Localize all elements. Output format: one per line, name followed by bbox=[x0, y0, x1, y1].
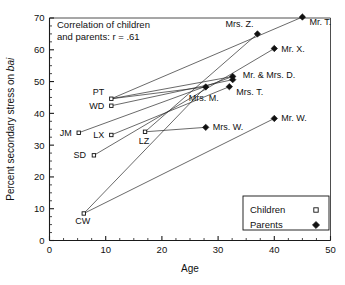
marker-parent-diamond[interactable] bbox=[271, 115, 277, 121]
y-tick-label: 70 bbox=[34, 12, 45, 23]
marker-child-square[interactable] bbox=[110, 104, 113, 107]
data-point[interactable]: Mr. W. bbox=[271, 113, 307, 123]
y-axis-title: Percent secondary stress on bai bbox=[5, 57, 16, 201]
data-point[interactable]: PT bbox=[93, 87, 113, 101]
marker-child-square[interactable] bbox=[143, 130, 146, 133]
legend[interactable]: ChildrenParents bbox=[243, 196, 329, 230]
x-tick-label: 40 bbox=[269, 244, 280, 255]
series-children: CWSDJMLXWDPTLZ bbox=[60, 87, 150, 227]
annotation-line-1: Correlation of children bbox=[57, 19, 150, 30]
data-point[interactable]: Mr. X. bbox=[271, 44, 305, 54]
connector-line bbox=[145, 34, 257, 132]
y-tick-label: 0 bbox=[39, 235, 44, 246]
data-point[interactable]: LX bbox=[93, 130, 113, 140]
x-tick-label: 30 bbox=[213, 244, 224, 255]
connector-lines bbox=[79, 17, 303, 213]
y-axis-title-main: Percent secondary stress on bbox=[5, 71, 16, 201]
series-parents: Mrs. W.Mr. W.Mrs. M.Mrs. T.Mr. & Mrs. D.… bbox=[189, 14, 332, 132]
x-axis-title: Age bbox=[181, 263, 199, 274]
data-point[interactable]: CW bbox=[75, 212, 90, 227]
data-point-label: JM bbox=[60, 128, 72, 138]
data-point[interactable]: Mr. T. bbox=[299, 14, 331, 27]
y-tick-label: 40 bbox=[34, 108, 45, 119]
data-point-label: Mrs. Z. bbox=[225, 19, 253, 29]
data-point[interactable]: Mrs. T. bbox=[226, 83, 263, 96]
marker-child-square[interactable] bbox=[77, 131, 80, 134]
data-point[interactable]: SD bbox=[73, 150, 95, 160]
y-axis-title-italic: bai bbox=[5, 57, 16, 71]
data-point-label: LZ bbox=[139, 136, 150, 146]
marker-parent-diamond[interactable] bbox=[226, 83, 232, 89]
y-tick-label: 20 bbox=[34, 171, 45, 182]
x-tick-label: 0 bbox=[47, 244, 52, 255]
marker-parent-diamond[interactable] bbox=[299, 14, 305, 20]
data-point[interactable]: Mrs. M. bbox=[189, 84, 219, 103]
data-point[interactable]: JM bbox=[60, 128, 81, 138]
data-point-label: Mr. X. bbox=[281, 44, 305, 54]
y-tick-label: 60 bbox=[34, 44, 45, 55]
data-point-label: Mrs. M. bbox=[189, 93, 219, 103]
data-point-label: Mr. & Mrs. D. bbox=[243, 70, 296, 80]
data-point[interactable]: Mr. & Mrs. D. bbox=[230, 70, 296, 80]
x-tick-label: 50 bbox=[325, 244, 336, 255]
legend-entry-label: Children bbox=[250, 204, 285, 215]
data-point-label: PT bbox=[93, 87, 105, 97]
marker-child-square[interactable] bbox=[110, 133, 113, 136]
data-point-label: Mrs. W. bbox=[213, 122, 244, 132]
connector-line bbox=[94, 49, 274, 156]
data-point-label: WD bbox=[89, 101, 104, 111]
data-point[interactable]: Mrs. Z. bbox=[225, 19, 260, 37]
data-point[interactable]: Mrs. W. bbox=[203, 122, 244, 132]
data-point-label: LX bbox=[93, 130, 104, 140]
x-tick-label: 20 bbox=[157, 244, 168, 255]
y-tick-label: 50 bbox=[34, 76, 45, 87]
y-tick-label: 10 bbox=[34, 203, 45, 214]
data-point-label: Mrs. T. bbox=[236, 87, 263, 97]
data-point-label: Mr. W. bbox=[281, 113, 307, 123]
x-tick-label: 10 bbox=[100, 244, 111, 255]
marker-child-square[interactable] bbox=[92, 154, 95, 157]
scatter-plot-figure: 01020304050010203040506070AgePercent sec… bbox=[0, 0, 345, 285]
chart-canvas: 01020304050010203040506070AgePercent sec… bbox=[0, 0, 345, 285]
annotation-line-2: and parents: r = .61 bbox=[57, 31, 140, 42]
legend-marker-open-square bbox=[314, 208, 318, 212]
data-point[interactable]: WD bbox=[89, 101, 113, 111]
marker-parent-diamond[interactable] bbox=[203, 124, 209, 130]
data-point-label: SD bbox=[73, 150, 86, 160]
connector-line bbox=[145, 127, 206, 131]
marker-child-square[interactable] bbox=[82, 212, 85, 215]
data-point[interactable]: LZ bbox=[139, 130, 150, 146]
correlation-annotation: Correlation of childrenand parents: r = … bbox=[57, 19, 150, 42]
marker-child-square[interactable] bbox=[110, 97, 113, 100]
marker-parent-diamond[interactable] bbox=[271, 45, 277, 51]
y-tick-label: 30 bbox=[34, 140, 45, 151]
legend-entry-label: Parents bbox=[250, 219, 283, 230]
data-point-label: CW bbox=[75, 216, 90, 226]
data-point-label: Mr. T. bbox=[309, 17, 331, 27]
